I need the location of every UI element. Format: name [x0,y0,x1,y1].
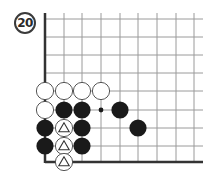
white-stone-triangle-marked [55,153,72,170]
black-stone [55,101,72,118]
white-stone-triangle-marked [55,137,72,154]
black-stone [73,119,90,136]
white-stone [55,82,72,99]
white-stone-triangle-marked [55,119,72,136]
black-stone [73,101,90,118]
go-board-diagram [0,0,211,178]
black-stone [73,137,90,154]
white-stone [73,82,90,99]
white-stone [36,101,53,118]
point-dot-marker [99,108,104,113]
black-stone [36,137,53,154]
white-stone [92,82,109,99]
board-stones [36,82,146,170]
board-markers [99,108,104,113]
black-stone [129,119,146,136]
white-stone [36,82,53,99]
black-stone [36,119,53,136]
black-stone [111,101,128,118]
